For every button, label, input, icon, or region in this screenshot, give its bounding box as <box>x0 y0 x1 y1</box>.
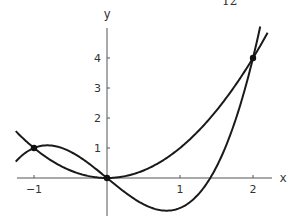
intersection-point <box>31 145 37 151</box>
curve-2 <box>16 27 260 211</box>
axes: xy−1121234 <box>17 7 287 216</box>
x-tick-label: 2 <box>250 183 257 196</box>
x-axis-label: x <box>279 171 286 185</box>
y-axis-label: y <box>103 7 110 21</box>
function-plot: xy−1121234 <box>0 0 297 223</box>
x-tick-label: 1 <box>177 183 184 196</box>
curves <box>16 27 268 211</box>
intersection-points <box>31 55 256 181</box>
y-tick-label: 1 <box>94 142 101 155</box>
curve-1 <box>16 33 268 178</box>
intersection-point <box>250 55 256 61</box>
y-tick-label: 2 <box>94 112 101 125</box>
intersection-point <box>104 175 110 181</box>
x-tick-label: −1 <box>26 183 42 196</box>
y-tick-label: 3 <box>94 82 101 95</box>
y-tick-label: 4 <box>94 52 101 65</box>
